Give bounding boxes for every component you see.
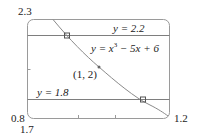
curve-rest: − 5x + 6 — [117, 42, 159, 54]
x-max-label: 1.2 — [174, 113, 188, 124]
chart-canvas — [0, 0, 197, 137]
curve-label: y = x3 − 5x + 6 — [91, 42, 159, 54]
line-bottom-label: y = 1.8 — [37, 87, 69, 98]
line-bottom-text: y = 1.8 — [37, 86, 69, 98]
point-label: (1, 2) — [73, 69, 97, 80]
point-1-2 — [98, 66, 101, 69]
line-top-text: y = 2.2 — [113, 22, 145, 34]
y-min-label: 1.7 — [20, 124, 34, 135]
y-max-label: 2.3 — [18, 6, 32, 17]
curve-text: y = x — [91, 42, 114, 54]
curve-cubic — [53, 20, 168, 117]
line-top-label: y = 2.2 — [113, 23, 145, 34]
